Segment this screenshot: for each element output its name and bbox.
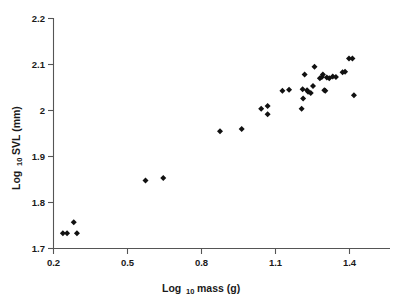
data-point — [351, 92, 357, 98]
data-point — [279, 88, 285, 94]
x-axis-title: Log 10 mass (g) — [162, 282, 240, 296]
x-tick-label: 1.1 — [269, 257, 283, 268]
data-point — [258, 106, 264, 112]
y-tick-label: 2 — [40, 105, 45, 116]
y-tick-label: 1.7 — [32, 243, 45, 254]
data-point — [265, 111, 271, 117]
y-axis-title: Log 10 SVL (mm) — [10, 106, 24, 190]
x-tick-labels: 0.2 0.5 0.8 1.1 1.4 — [47, 257, 357, 268]
data-point — [299, 106, 305, 112]
data-point — [160, 175, 166, 181]
data-point — [64, 230, 70, 236]
x-tick-label: 0.2 — [47, 257, 60, 268]
data-point — [302, 72, 308, 78]
y-tick-labels: 1.7 1.8 1.9 2 2.1 2.2 — [32, 13, 46, 254]
data-point — [311, 64, 317, 70]
x-tick-label: 0.8 — [195, 257, 208, 268]
data-point — [300, 96, 306, 102]
x-tick-marks — [54, 249, 350, 255]
data-point — [265, 103, 271, 109]
x-axis-title-tail: mass (g) — [197, 282, 240, 294]
data-point — [286, 87, 292, 93]
y-axis-title-tail: SVL (mm) — [10, 106, 22, 155]
data-point — [71, 219, 77, 225]
data-point — [217, 128, 223, 134]
x-axis-title-subscript: 10 — [186, 287, 194, 296]
y-tick-label: 1.9 — [32, 151, 45, 162]
y-tick-label: 1.8 — [32, 197, 45, 208]
data-point — [143, 177, 149, 183]
data-point-group — [60, 56, 357, 237]
y-tick-label: 2.2 — [32, 13, 45, 24]
x-axis-title-main: Log — [162, 282, 181, 294]
x-tick-label: 0.5 — [121, 257, 135, 268]
y-axis-title-subscript: 10 — [15, 158, 24, 166]
scatter-plot-figure: 1.7 1.8 1.9 2 2.1 2.2 0.2 0.5 0.8 1.1 1.… — [0, 0, 412, 304]
y-axis-title-main: Log — [10, 171, 22, 190]
data-point — [310, 83, 316, 89]
data-point — [74, 230, 80, 236]
x-tick-label: 1.4 — [343, 257, 357, 268]
data-point — [239, 126, 245, 132]
y-tick-marks — [48, 19, 54, 249]
data-point — [349, 56, 355, 62]
data-point — [300, 86, 306, 92]
y-tick-label: 2.1 — [32, 59, 46, 70]
axis-lines — [53, 18, 390, 249]
scatter-plot-canvas: 1.7 1.8 1.9 2 2.1 2.2 0.2 0.5 0.8 1.1 1.… — [0, 0, 412, 304]
